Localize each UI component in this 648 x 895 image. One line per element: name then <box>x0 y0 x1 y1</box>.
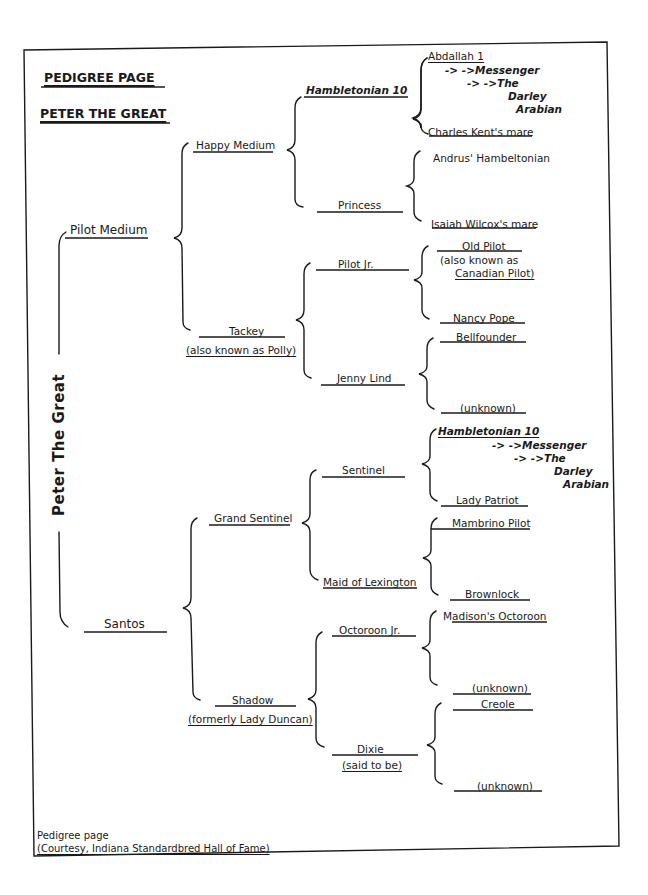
subject-horse: Peter The Great <box>50 374 68 516</box>
old-pilot-note-2: Canadian Pilot) <box>455 267 534 279</box>
footer-credit: (Courtesy, Indiana Standardbred Hall of … <box>37 843 270 855</box>
brownlock: Brownlock <box>465 588 519 600</box>
abdallah-lineage-4: Arabian <box>516 103 562 115</box>
sire-dam-note: (also known as Polly) <box>186 344 296 356</box>
bracket-sentinel <box>422 429 437 501</box>
footer-caption: Pedigree page <box>37 830 109 842</box>
bracket-jenny-lind <box>419 338 434 409</box>
abdallah-lineage-3: Darley <box>508 90 547 102</box>
dixie: Dixie <box>357 743 384 755</box>
dixie-note: (said to be) <box>342 759 402 771</box>
bracket-grand-sentinel <box>302 470 318 580</box>
old-pilot-note-1: (also known as <box>440 254 518 266</box>
page-heading: PEDIGREE PAGE <box>44 72 155 84</box>
abdallah-lineage-1: -> ->Messenger <box>445 64 539 76</box>
abdallah-1: Abdallah 1 <box>428 50 484 62</box>
lady-patriot: Lady Patriot <box>456 494 519 506</box>
bracket-octoroon-jr <box>422 611 437 685</box>
bellfounder: Bellfounder <box>456 331 516 343</box>
horse-name-heading: PETER THE GREAT <box>40 108 166 120</box>
isaiah-wilcox-mare: Isaiah Wilcox's mare <box>431 218 538 230</box>
octoroon-jr: Octoroon Jr. <box>339 624 400 636</box>
madisons-octoroon: Madison's Octoroon <box>443 610 547 622</box>
creole: Creole <box>481 698 515 710</box>
bracket-princess <box>407 151 421 221</box>
bracket-happy-medium <box>287 97 303 207</box>
unknown-dam-dixie: (unknown) <box>477 780 533 792</box>
unknown-dam-jenny-lind: (unknown) <box>460 402 516 414</box>
bracket-hambletonian <box>413 58 427 128</box>
sentinel: Sentinel <box>342 464 385 476</box>
ham2-lineage-2: -> ->The <box>514 452 566 464</box>
ham2-lineage-3: Darley <box>554 465 593 477</box>
pilot-jr: Pilot Jr. <box>338 258 374 270</box>
bracket-pilot-jr <box>414 246 429 319</box>
sire-dam-name: Tackey <box>229 325 264 337</box>
bracket-pilot-medium <box>174 143 190 330</box>
dam-sire-name: Grand Sentinel <box>214 512 292 524</box>
root-bracket <box>59 232 66 354</box>
andrus-hambeltonian: Andrus' Hambeltonian <box>433 152 550 164</box>
bracket-santos <box>183 518 200 700</box>
old-pilot: Old Pilot <box>462 240 506 252</box>
bracket-tackey <box>296 263 311 378</box>
dam-dam-name: Shadow <box>232 694 273 706</box>
jenny-lind: Jenny Lind <box>337 372 392 384</box>
sire-name: Pilot Medium <box>70 224 147 236</box>
ham2-lineage-4: Arabian <box>563 478 609 490</box>
mambrino-pilot: Mambrino Pilot <box>452 517 531 529</box>
dam-name: Santos <box>104 618 145 630</box>
ham2-lineage-1: -> ->Messenger <box>492 439 586 451</box>
maid-of-lexington: Maid of Lexington <box>323 576 416 588</box>
charles-kents-mare: Charles Kent's mare <box>428 126 533 138</box>
sire-sire-name: Happy Medium <box>196 139 275 151</box>
princess: Princess <box>338 199 381 211</box>
bracket-shadow <box>308 632 324 747</box>
hambletonian-10-second: Hambletonian 10 <box>438 425 539 437</box>
nancy-pope: Nancy Pope <box>453 312 515 324</box>
bracket-dixie <box>427 703 442 784</box>
hambletonian-10: Hambletonian 10 <box>306 84 407 96</box>
abdallah-lineage-2: -> ->The <box>467 77 519 89</box>
dam-dam-note: (formerly Lady Duncan) <box>188 713 313 725</box>
unknown-dam-octoroon-jr: (unknown) <box>472 682 528 694</box>
